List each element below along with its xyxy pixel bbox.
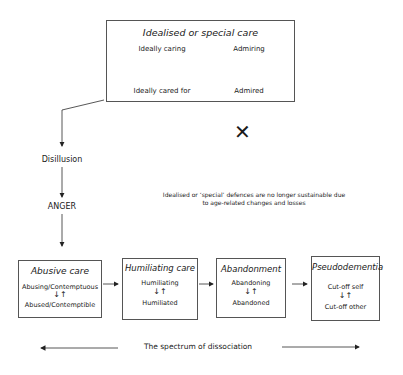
note-line-1: Idealised or ‘special’ defences are no l…: [163, 191, 345, 198]
humiliating-care-box: Humiliating care Humiliating ↓↑ Humiliat…: [122, 258, 198, 320]
pseudodementia-title: Pseudodementia: [312, 262, 379, 272]
bidirectional-arrows-icon: ↓↑: [217, 288, 285, 296]
cut-off-other-label: Cut-off other: [312, 303, 379, 311]
cross-icon: ✕: [234, 121, 251, 143]
abused-label: Abused/Contemptible: [19, 301, 101, 309]
abandoning-label: Abandoning: [217, 279, 285, 287]
cut-off-self-label: Cut-off self: [312, 283, 379, 291]
idealised-care-box: Idealised or special care Ideally caring…: [106, 20, 295, 102]
idealised-care-title: Idealised or special care: [107, 27, 294, 38]
ideally-cared-for-label: Ideally cared for: [134, 87, 191, 95]
spectrum-label: The spectrum of dissociation: [144, 342, 252, 351]
bidirectional-arrows-icon: ↓↑: [312, 292, 379, 300]
humiliating-label: Humiliating: [123, 279, 197, 287]
humiliated-label: Humiliated: [123, 299, 197, 307]
bidirectional-arrows-icon: ↓↑: [19, 291, 101, 299]
abusive-care-title: Abusive care: [19, 266, 101, 276]
abusive-care-box: Abusive care Abusing/Contemptuous ↓↑ Abu…: [18, 260, 102, 318]
abandonment-box: Abandonment Abandoning ↓↑ Abandoned: [216, 258, 286, 318]
abandonment-title: Abandonment: [217, 264, 285, 274]
abandoned-label: Abandoned: [217, 299, 285, 307]
admiring-label: Admiring: [233, 45, 265, 53]
ideally-caring-label: Ideally caring: [138, 45, 185, 53]
note-line-2: to age-related changes and losses: [202, 199, 305, 206]
pseudodementia-box: Pseudodementia Cut-off self ↓↑ Cut-off o…: [311, 256, 380, 321]
anger-label: ANGER: [48, 202, 76, 211]
disillusion-label: Disillusion: [42, 155, 83, 164]
admired-label: Admired: [234, 87, 263, 95]
bidirectional-arrows-icon: ↓↑: [123, 288, 197, 296]
humiliating-care-title: Humiliating care: [123, 263, 197, 273]
